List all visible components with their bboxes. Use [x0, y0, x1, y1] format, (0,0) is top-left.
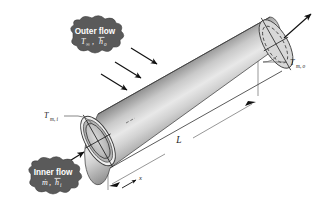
outer-flow-comma: , — [92, 37, 94, 46]
inner-flow-comma: , — [49, 178, 51, 187]
figure-container: Outer flow T ∞ , h o Inner flow ṁ , h i… — [0, 0, 333, 209]
arrow-up-right-icon-outlet — [284, 14, 311, 38]
x-axis-indicator — [122, 180, 136, 188]
outer-flow-symbol-h-subscript: o — [104, 41, 107, 47]
outlet-temp-symbol: T — [290, 58, 295, 67]
inlet-temp-symbol: T — [44, 111, 49, 120]
outlet-temp-subscript: m, o — [296, 63, 306, 69]
outer-flow-symbol-h: h — [99, 37, 103, 46]
inner-flow-symbol-h: h — [55, 178, 59, 187]
length-label: L — [175, 135, 181, 145]
inlet-temp-subscript: m, i — [50, 116, 59, 122]
outer-flow-heading: Outer flow — [75, 27, 116, 36]
outer-flow-arrow-group — [101, 48, 157, 90]
inner-flow-callout: Inner flow ṁ , h i — [29, 157, 82, 194]
arrow-down-right-icon-3 — [101, 74, 127, 90]
inner-flow-symbol-mdot: ṁ — [42, 178, 48, 187]
axis-arrow-icon — [122, 180, 136, 188]
outer-flow-callout: Outer flow T ∞ , h o — [71, 16, 124, 53]
length-dim-segment-right — [193, 104, 252, 138]
axis-label-x: x — [138, 174, 142, 181]
tube-heat-transfer-diagram: Outer flow T ∞ , h o Inner flow ṁ , h i… — [0, 0, 333, 209]
inlet-temperature-label: T m, i — [44, 111, 59, 122]
outer-flow-symbol-T-subscript: ∞ — [86, 41, 90, 47]
arrow-down-right-icon-1 — [131, 48, 157, 64]
outlet-temperature-label: T m, o — [290, 58, 306, 69]
inner-flow-heading: Inner flow — [34, 168, 73, 177]
arrow-down-right-icon-2 — [115, 62, 141, 78]
